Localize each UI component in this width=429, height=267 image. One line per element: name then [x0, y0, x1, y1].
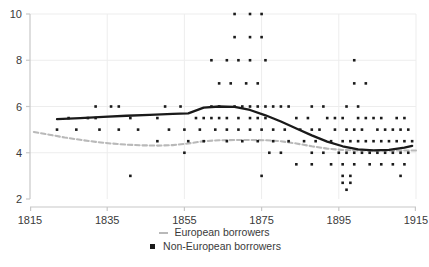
legend-label-non-european-borrowers: Non-European borrowers [163, 240, 281, 253]
svg-text:1895: 1895 [327, 214, 351, 226]
svg-text:6: 6 [16, 101, 22, 113]
scatter-points-non-european-borrowers [56, 13, 414, 191]
x-axis-tick-labels: 181518351855187518951915 [18, 214, 428, 226]
legend-item-european-borrowers: European borrowers [159, 226, 269, 239]
legend-label-european-borrowers: European borrowers [174, 226, 269, 239]
chart-container: 246810 181518351855187518951915 European… [0, 0, 429, 267]
chart-legend: European borrowers Non-European borrower… [0, 226, 429, 253]
x-axis-ticks [31, 207, 416, 211]
svg-text:1815: 1815 [18, 214, 42, 226]
y-axis-tick-labels: 246810 [10, 8, 22, 205]
svg-text:8: 8 [16, 54, 22, 66]
axis-lines [30, 14, 416, 207]
dashed-line-marker-icon [159, 228, 168, 237]
svg-text:2: 2 [16, 193, 22, 205]
svg-text:10: 10 [10, 8, 22, 20]
svg-text:4: 4 [16, 147, 22, 159]
svg-text:1915: 1915 [404, 214, 428, 226]
svg-text:1855: 1855 [172, 214, 196, 226]
legend-item-non-european-borrowers: Non-European borrowers [148, 240, 281, 253]
svg-text:1875: 1875 [249, 214, 273, 226]
svg-text:1835: 1835 [95, 214, 119, 226]
square-marker-icon [148, 242, 157, 251]
